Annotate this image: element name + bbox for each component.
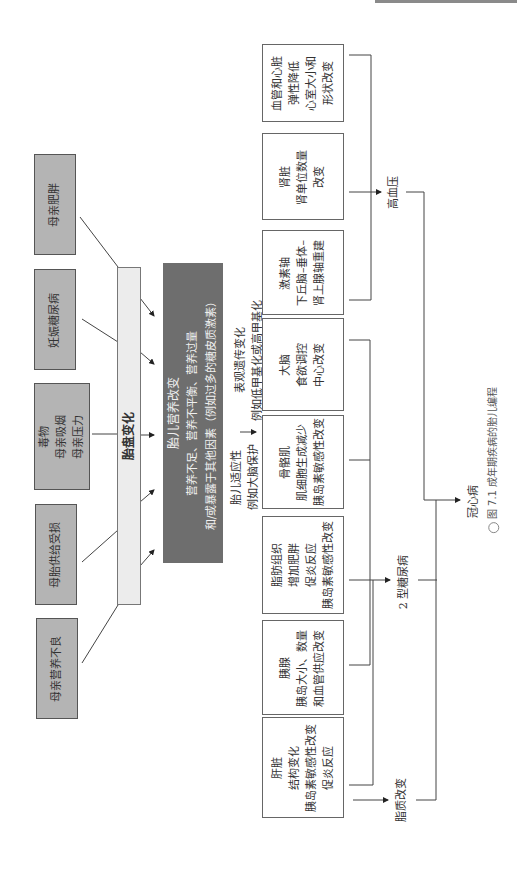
organ-adipose-line-2: 增加肥胖 <box>286 521 303 609</box>
fetal-adaptation: 胎儿适应性 例如大脑保护 <box>228 432 262 522</box>
organ-box-liver: 肝脏 结构变化 胰岛素敏感性改变 促炎反应 <box>262 717 344 818</box>
organ-muscle-line-1: 骨骼肌 <box>277 418 294 506</box>
organ-liver-line-2: 结构变化 <box>286 724 303 812</box>
organ-box-adipose: 脂肪组织 增加肥胖 促炎反应 胰岛素敏感性改变 <box>262 516 344 614</box>
figure-caption-text: 图 7.1 成年期疾病的胎儿编程 <box>487 387 498 519</box>
fetal-adaptation-line-1: 胎儿适应性 <box>229 444 246 510</box>
toxins-line-3: 母亲压力 <box>71 415 88 459</box>
organ-liver-line-3: 胰岛素敏感性改变 <box>303 724 320 812</box>
organ-box-hormone-axis: 激素轴 下丘脑–垂体– 肾上腺轴重建 <box>262 230 344 315</box>
outcome-chd-label: 冠心病 <box>465 485 482 518</box>
fetal-nutrition-line-2: 营养不足、营养不平衡、营养过量 <box>185 296 204 531</box>
fetal-nutrition-title: 胎儿营养改变 <box>164 296 184 531</box>
gestational-diabetes-box: 妊娠糖尿病 <box>34 269 76 370</box>
organ-pancreas-line-3: 和血管供应改变 <box>312 629 329 706</box>
organ-brain-line-3: 中心改变 <box>312 343 329 387</box>
organ-box-skeletal-muscle: 骨骼肌 肌细胞生成减少 胰岛素敏感性改变 <box>262 415 344 509</box>
organ-vessels-line-1: 血管和心脏 <box>269 56 286 111</box>
organ-adipose-line-1: 脂肪组织 <box>269 521 286 609</box>
organ-pancreas-line-2: 胰岛大小、数量 <box>294 629 311 706</box>
outcome-hypertension-label: 高血压 <box>385 176 402 209</box>
figure-caption: 图 7.1 成年期疾病的胎儿编程 <box>482 380 504 540</box>
organ-hormone-line-1: 激素轴 <box>277 240 294 306</box>
organ-vessels-line-3: 心室大小和 <box>303 56 320 111</box>
organ-box-kidney: 肾脏 肾单位数量 改变 <box>262 133 344 220</box>
epigenetic-line-1: 表观遗传变化 <box>233 300 250 421</box>
organ-hormone-line-3: 肾上腺轴重建 <box>312 240 329 306</box>
placental-supply-label: 母胎供给受损 <box>47 522 64 588</box>
maternal-obesity-box: 母亲肥胖 <box>34 154 76 255</box>
bulb-icon <box>488 522 499 533</box>
organ-vessels-line-2: 弹性降低 <box>286 56 303 111</box>
organ-box-brain: 大脑 食欲调控 中心改变 <box>262 318 344 411</box>
outcome-lipid-changes: 脂质改变 <box>390 772 414 828</box>
organ-liver-line-1: 肝脏 <box>269 724 286 812</box>
organ-adipose-line-4: 胰岛素敏感性改变 <box>320 521 337 609</box>
outcome-lipid-label: 脂质改变 <box>393 778 410 822</box>
outcome-diabetes-label: 2 型糖尿病 <box>395 555 412 610</box>
toxins-line-1: 毒物 <box>36 415 53 459</box>
fetal-nutrition-line-3: 和/或暴露于其他因素（例如过多的糖皮质激素） <box>203 296 222 531</box>
organ-vessels-line-4: 形状改变 <box>320 56 337 111</box>
fetal-nutrition-box: 胎儿营养改变 营养不足、营养不平衡、营养过量 和/或暴露于其他因素（例如过多的糖… <box>163 263 223 563</box>
organ-kidney-line-1: 肾脏 <box>277 149 294 204</box>
placenta-box: 胎盘变化 <box>117 267 141 605</box>
organ-kidney-line-2: 肾单位数量 <box>294 149 311 204</box>
organ-pancreas-line-1: 胰腺 <box>277 629 294 706</box>
outcome-type2-diabetes: 2 型糖尿病 <box>392 550 416 614</box>
maternal-malnutrition-box: 母亲营养不良 <box>36 618 78 719</box>
organ-muscle-line-2: 肌细胞生成减少 <box>294 418 311 506</box>
maternal-obesity-label: 母亲肥胖 <box>46 183 63 227</box>
organ-brain-line-2: 食欲调控 <box>294 343 311 387</box>
toxins-line-2: 母亲吸烟 <box>53 415 70 459</box>
organ-box-pancreas: 胰腺 胰岛大小、数量 和血管供应改变 <box>262 620 344 715</box>
placenta-label: 胎盘变化 <box>120 412 139 460</box>
organ-liver-line-4: 促炎反应 <box>320 724 337 812</box>
fetal-adaptation-line-2: 例如大脑保护 <box>245 444 262 510</box>
toxins-box: 毒物 母亲吸烟 母亲压力 <box>34 383 90 490</box>
placental-supply-box: 母胎供给受损 <box>35 504 77 605</box>
organ-brain-line-1: 大脑 <box>277 343 294 387</box>
gestational-diabetes-label: 妊娠糖尿病 <box>46 292 63 347</box>
organ-hormone-line-2: 下丘脑–垂体– <box>294 240 311 306</box>
outcome-hypertension: 高血压 <box>383 170 405 214</box>
organ-box-vessels-heart: 血管和心脏 弹性降低 心室大小和 形状改变 <box>262 44 344 122</box>
maternal-malnutrition-label: 母亲营养不良 <box>48 636 65 702</box>
organ-muscle-line-3: 胰岛素敏感性改变 <box>312 418 329 506</box>
organ-kidney-line-3: 改变 <box>312 149 329 204</box>
organ-adipose-line-3: 促炎反应 <box>303 521 320 609</box>
